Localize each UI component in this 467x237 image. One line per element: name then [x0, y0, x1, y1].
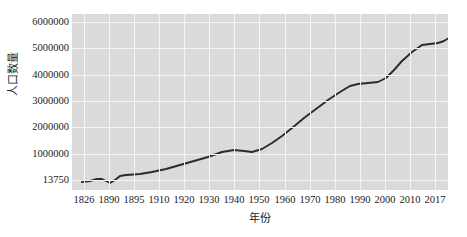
- x-tick-label: 1980: [325, 193, 346, 206]
- x-tick-label: 2017: [425, 193, 446, 206]
- gridline-vertical: [159, 14, 160, 190]
- y-tick-label: 5000000: [0, 42, 69, 54]
- gridline-vertical: [184, 14, 185, 190]
- gridline-horizontal: [72, 22, 448, 23]
- x-axis-tick-labels: 1826189018951910192019301940195019601970…: [0, 193, 467, 207]
- series-line-population: [72, 14, 448, 190]
- x-tick-label: 1890: [99, 193, 120, 206]
- gridline-vertical: [259, 14, 260, 190]
- gridline-horizontal: [72, 180, 448, 181]
- x-axis-title: 年份: [72, 209, 448, 225]
- x-tick-label: 1960: [275, 193, 296, 206]
- gridline-horizontal: [72, 154, 448, 155]
- population-line-chart: 人口数量 60000005000000400000030000002000000…: [0, 0, 467, 237]
- gridline-vertical: [209, 14, 210, 190]
- x-tick-label: 1826: [74, 193, 95, 206]
- gridline-vertical: [234, 14, 235, 190]
- gridline-vertical: [134, 14, 135, 190]
- y-tick-label: 3000000: [0, 95, 69, 107]
- x-tick-label: 1930: [199, 193, 220, 206]
- gridline-horizontal: [72, 48, 448, 49]
- gridline-vertical: [410, 14, 411, 190]
- gridline-horizontal: [72, 101, 448, 102]
- gridline-vertical: [360, 14, 361, 190]
- gridline-vertical: [310, 14, 311, 190]
- gridline-horizontal: [72, 75, 448, 76]
- plot-area: [72, 14, 448, 190]
- gridline-horizontal: [72, 127, 448, 128]
- gridline-vertical: [109, 14, 110, 190]
- x-tick-label: 1895: [124, 193, 145, 206]
- x-tick-label: 1950: [249, 193, 270, 206]
- x-tick-label: 1990: [350, 193, 371, 206]
- gridline-vertical: [335, 14, 336, 190]
- x-tick-label: 2010: [400, 193, 421, 206]
- y-tick-label: 4000000: [0, 69, 69, 81]
- x-tick-label: 1970: [300, 193, 321, 206]
- gridline-vertical: [84, 14, 85, 190]
- gridline-vertical: [435, 14, 436, 190]
- x-tick-label: 1920: [174, 193, 195, 206]
- x-tick-label: 2000: [375, 193, 396, 206]
- y-tick-label: 1000000: [0, 148, 69, 160]
- gridline-vertical: [385, 14, 386, 190]
- y-tick-label: 2000000: [0, 121, 69, 133]
- y-tick-label: 6000000: [0, 16, 69, 28]
- x-tick-label: 1940: [224, 193, 245, 206]
- y-tick-label: 13750: [0, 174, 69, 186]
- gridline-vertical: [285, 14, 286, 190]
- x-tick-label: 1910: [149, 193, 170, 206]
